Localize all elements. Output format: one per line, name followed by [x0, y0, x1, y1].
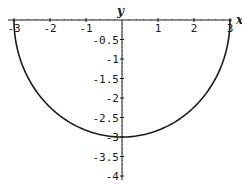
y-tick-label: -2.5	[93, 112, 120, 125]
x-tick-label: -3	[7, 22, 20, 35]
x-tick-label: 2	[191, 22, 198, 35]
y-axis-label: y	[116, 4, 125, 18]
y-tick-label: -2	[106, 92, 119, 105]
y-tick-label: -3	[106, 131, 119, 144]
x-axis-label: x	[235, 13, 242, 27]
x-axis-ticks: -3-2-1123	[7, 18, 233, 35]
y-tick-label: -1	[106, 53, 119, 66]
y-tick-label: -3.5	[93, 151, 120, 164]
x-tick-label: 3	[227, 22, 234, 35]
y-tick-label: -4	[106, 170, 120, 183]
x-tick-label: -1	[79, 22, 92, 35]
y-tick-label: -1.5	[93, 73, 120, 86]
x-tick-label: 1	[155, 22, 162, 35]
y-tick-label: -0.5	[93, 34, 120, 47]
chart-canvas: -3-2-1123 -0.5-1-1.5-2-2.5-3-3.5-4 x y	[0, 0, 242, 185]
y-axis-ticks: -0.5-1-1.5-2-2.5-3-3.5-4	[93, 24, 125, 183]
x-tick-label: -2	[43, 22, 56, 35]
